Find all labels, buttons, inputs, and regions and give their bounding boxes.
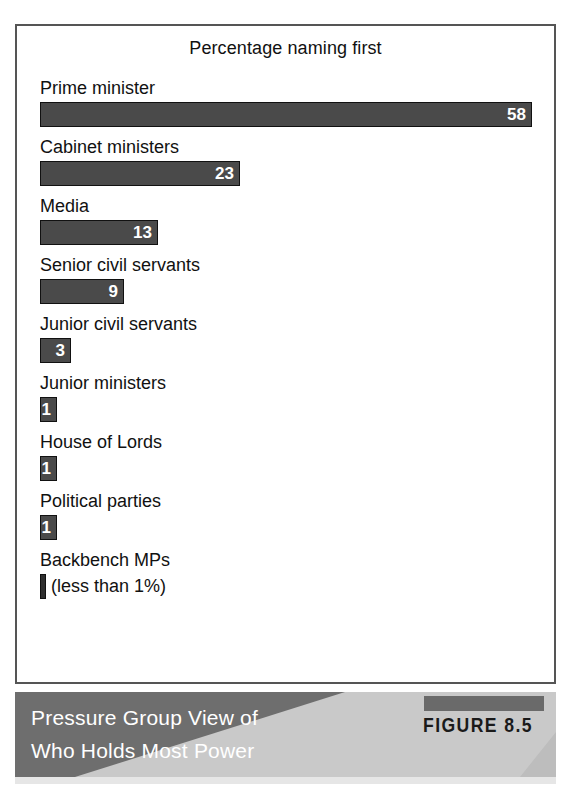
bar-row: (less than 1%) xyxy=(40,574,548,599)
bar-chart-bars: Prime minister58Cabinet ministers23Media… xyxy=(40,78,548,609)
bar-category-label: Cabinet ministers xyxy=(40,137,548,158)
bar-group: Political parties1 xyxy=(40,491,548,540)
bar-category-label: Political parties xyxy=(40,491,548,512)
bar-group: Media13 xyxy=(40,196,548,245)
chart-title: Percentage naming first xyxy=(17,38,554,59)
figure-number-label: FIGURE 8.5 xyxy=(423,714,542,737)
bar-category-label: Senior civil servants xyxy=(40,255,548,276)
bar-value-label: 1 xyxy=(42,460,56,477)
bar-category-label: Prime minister xyxy=(40,78,548,99)
chart-panel: Percentage naming first Prime minister58… xyxy=(15,24,556,684)
figure-tag-accent-bar xyxy=(424,696,544,711)
bar-category-label: Media xyxy=(40,196,548,217)
bar-row: 58 xyxy=(40,102,548,127)
bar[interactable]: 1 xyxy=(40,515,57,540)
bar[interactable]: 1 xyxy=(40,397,57,422)
bottom-edge-shadow xyxy=(15,777,556,784)
bar-group: Junior ministers1 xyxy=(40,373,548,422)
bar-group: Cabinet ministers23 xyxy=(40,137,548,186)
bar-value-label: 1 xyxy=(42,401,56,418)
bar-category-label: Junior civil servants xyxy=(40,314,548,335)
caption-line-2: Who Holds Most Power xyxy=(31,734,258,767)
bar-note-label: (less than 1%) xyxy=(51,576,166,597)
bar-group: Senior civil servants9 xyxy=(40,255,548,304)
bar[interactable]: 3 xyxy=(40,338,71,363)
caption-line-1: Pressure Group View of xyxy=(31,701,258,734)
bar-row: 1 xyxy=(40,456,548,481)
bar-value-label: 58 xyxy=(507,106,531,123)
bar-row: 9 xyxy=(40,279,548,304)
bar[interactable]: 1 xyxy=(40,456,57,481)
bar[interactable]: 58 xyxy=(40,102,532,127)
bar[interactable]: 23 xyxy=(40,161,240,186)
figure-container: Percentage naming first Prime minister58… xyxy=(0,0,570,792)
bar[interactable]: 13 xyxy=(40,220,158,245)
bar-row: 1 xyxy=(40,515,548,540)
bar-category-label: House of Lords xyxy=(40,432,548,453)
bar-row: 1 xyxy=(40,397,548,422)
bar-category-label: Junior ministers xyxy=(40,373,548,394)
bar-row: 13 xyxy=(40,220,548,245)
bar-value-label: 23 xyxy=(215,165,239,182)
bar[interactable]: 9 xyxy=(40,279,124,304)
caption-title: Pressure Group View of Who Holds Most Po… xyxy=(31,701,258,767)
bar-row: 23 xyxy=(40,161,548,186)
bar[interactable] xyxy=(40,574,46,599)
bar-group: Backbench MPs(less than 1%) xyxy=(40,550,548,599)
bar-category-label: Backbench MPs xyxy=(40,550,548,571)
bar-value-label: 3 xyxy=(56,342,70,359)
bar-group: House of Lords1 xyxy=(40,432,548,481)
bar-group: Prime minister58 xyxy=(40,78,548,127)
bar-row: 3 xyxy=(40,338,548,363)
bar-group: Junior civil servants3 xyxy=(40,314,548,363)
bar-value-label: 1 xyxy=(42,519,56,536)
bar-value-label: 13 xyxy=(133,224,157,241)
bar-value-label: 9 xyxy=(109,283,123,300)
